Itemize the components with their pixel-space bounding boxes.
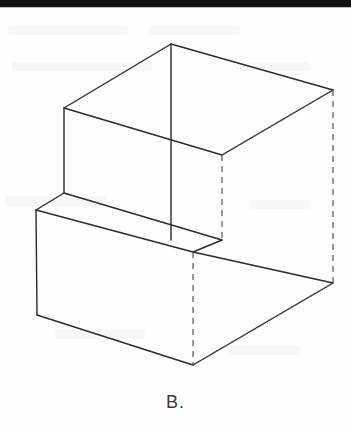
step-shelf-front-edge: [36, 210, 193, 252]
isometric-block-figure: [0, 0, 351, 432]
top-face-right-ridge: [171, 44, 333, 90]
step-top-front-edge: [64, 193, 222, 240]
figure-caption: B.: [0, 392, 351, 413]
bottom-front-left-edge: [37, 315, 193, 365]
figure-page: B.: [0, 0, 351, 432]
lower-right-slant: [193, 252, 333, 283]
hidden-bottom-rear-diagonal: [193, 283, 333, 365]
top-face-front-left: [64, 108, 222, 155]
hidden-edge-group: [193, 90, 333, 365]
top-face-left-ridge: [64, 44, 171, 108]
lower-left-vertical: [36, 210, 37, 315]
step-shelf-right-edge: [193, 240, 222, 252]
visible-edge-group: [36, 44, 333, 365]
step-top-left-edge: [36, 193, 64, 210]
top-face-front-right: [222, 90, 333, 155]
